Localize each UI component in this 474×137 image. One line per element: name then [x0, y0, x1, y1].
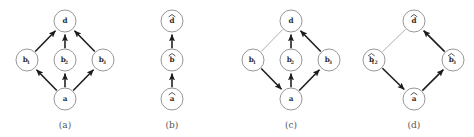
node-b2[interactable]: b2 [54, 49, 76, 71]
node-d-label: d [62, 16, 67, 25]
edge-a-to-b3 [299, 70, 319, 91]
node-d[interactable]: d [54, 10, 76, 32]
node-b3-hat-subscript: 3 [453, 60, 456, 65]
node-d-hat-label: d [411, 16, 416, 25]
node-b1-subscript: 1 [27, 60, 30, 65]
node-b12-hat-subscript: 12 [371, 60, 377, 65]
panel-caption-c: (c) [285, 120, 297, 130]
node-b-hat[interactable]: b [161, 49, 183, 71]
edge-b3hat-to-dhat [424, 31, 445, 52]
node-a-label: a [63, 94, 68, 103]
node-b2[interactable]: b2 [280, 49, 302, 71]
node-d-hat[interactable]: d [161, 10, 183, 32]
edge-a-to-b1 [36, 70, 56, 91]
panel-caption-b: (b) [166, 120, 179, 130]
node-b1-subscript: 1 [253, 60, 256, 65]
node-a-hat-label: a [412, 94, 417, 103]
node-b2-subscript: 2 [291, 60, 294, 65]
node-d-hat-label: d [169, 16, 174, 25]
node-b3-subscript: 3 [329, 60, 332, 65]
node-b2-subscript: 2 [65, 60, 68, 65]
edge-b1-to-d [35, 31, 55, 52]
node-a-label: a [289, 94, 294, 103]
node-a-hat[interactable]: a [403, 88, 425, 110]
edge-b12hat-to-ahat [382, 68, 404, 89]
node-d[interactable]: d [280, 10, 302, 32]
edge-b12hat-to-dhat [382, 29, 405, 52]
node-b3[interactable]: b3 [318, 49, 340, 71]
edge-b3-to-d [74, 31, 94, 52]
nodes-layer: db1b2b3adbadb1b2b3adb12b3a [16, 10, 464, 110]
node-a-hat[interactable]: a [161, 88, 183, 110]
edge-b1-to-a [261, 68, 281, 89]
node-d-label: d [288, 16, 293, 25]
node-b3[interactable]: b3 [92, 49, 114, 71]
node-b3-subscript: 3 [103, 60, 106, 65]
node-a[interactable]: a [54, 88, 76, 110]
edge-b3-to-d [300, 31, 320, 52]
captions-layer: (a)(b)(c)(d) [59, 120, 421, 130]
node-b-hat-label: b [169, 55, 174, 64]
node-a-hat-label: a [170, 94, 175, 103]
node-b3-hat[interactable]: b3 [442, 49, 464, 71]
node-b1[interactable]: b1 [16, 49, 38, 71]
node-a[interactable]: a [280, 88, 302, 110]
panel-caption-d: (d) [408, 120, 421, 130]
node-b1[interactable]: b1 [242, 49, 264, 71]
edge-ahat-to-b3hat [422, 70, 443, 91]
node-d-hat[interactable]: d [403, 10, 425, 32]
figure-container: db1b2b3adbadb1b2b3adb12b3a (a)(b)(c)(d) [0, 0, 474, 137]
edge-a-to-b3 [73, 70, 93, 91]
edge-b1-to-d-reversed [261, 29, 283, 51]
node-b12-hat[interactable]: b12 [363, 49, 385, 71]
panel-caption-a: (a) [59, 120, 71, 130]
graph-figure-svg: db1b2b3adbadb1b2b3adb12b3a (a)(b)(c)(d) [0, 0, 474, 137]
